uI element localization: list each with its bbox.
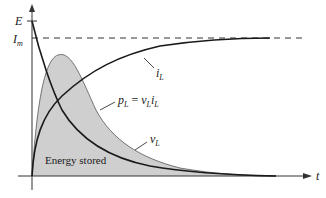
x-axis-label: t xyxy=(316,169,320,183)
energy-stored-label: Energy stored xyxy=(45,154,107,166)
voltage-leader-line xyxy=(135,142,147,150)
current-leader-line xyxy=(144,58,154,68)
inductor-energy-diagram: E Im t iL pL = vLiL vL Energy stored xyxy=(0,0,326,198)
y-axis-arrow-icon xyxy=(29,4,35,12)
voltage-label: vL xyxy=(150,132,160,148)
power-leader-line xyxy=(100,102,115,110)
im-label: Im xyxy=(12,32,23,48)
y-axis-label: E xyxy=(14,14,23,28)
x-axis-arrow-icon xyxy=(303,173,312,179)
current-label: iL xyxy=(156,66,164,82)
power-equation-label: pL = vLiL xyxy=(117,93,159,109)
